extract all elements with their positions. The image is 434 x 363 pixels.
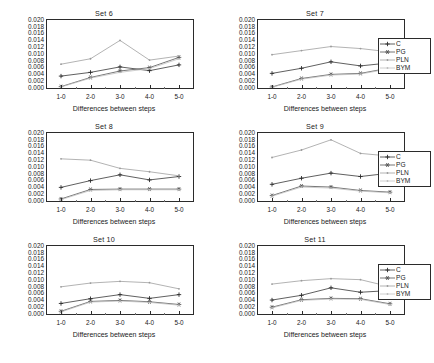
- chart-legend-row-1[interactable]: CPGPLNBYM: [378, 151, 431, 187]
- plot-area: [46, 132, 194, 202]
- legend-item-bym[interactable]: BYM: [379, 290, 430, 298]
- x-tick-label: 5-0: [385, 319, 394, 326]
- x-tick-minor-mark: [164, 200, 165, 202]
- y-tick-label: 0.006: [239, 64, 255, 70]
- legend-item-c[interactable]: C: [379, 266, 430, 274]
- x-tick-minor-mark: [375, 313, 376, 315]
- legend-item-pg[interactable]: PG: [379, 161, 430, 169]
- x-tick-label: 3-0: [326, 319, 335, 326]
- x-tick-minor-mark: [105, 87, 106, 89]
- y-tick-label: 0.012: [239, 157, 255, 163]
- legend-label: C: [396, 40, 401, 48]
- y-tick-label: 0.006: [239, 290, 255, 296]
- y-tick-label: 0.002: [28, 304, 44, 310]
- y-tick-label: 0.000: [239, 311, 255, 317]
- y-axis: 0.0000.0020.0040.0060.0080.0100.0120.014…: [4, 132, 44, 202]
- x-tick-label: 4-0: [145, 93, 154, 100]
- y-axis: 0.0000.0020.0040.0060.0080.0100.0120.014…: [4, 245, 44, 315]
- legend-swatch-icon: [379, 56, 396, 64]
- legend-swatch-icon: [379, 177, 396, 185]
- x-tick-mark: [61, 85, 62, 88]
- chart-legend-row-2[interactable]: CPGPLNBYM: [378, 264, 431, 300]
- y-tick-label: 0.002: [239, 78, 255, 84]
- legend-swatch-icon: [379, 274, 396, 282]
- legend-swatch-icon: [379, 169, 396, 177]
- legend-item-bym[interactable]: BYM: [379, 177, 430, 185]
- x-tick-minor-mark: [375, 200, 376, 202]
- chart-legend-row-0[interactable]: CPGPLNBYM: [378, 38, 431, 74]
- x-tick-minor-mark: [164, 87, 165, 89]
- x-tick-minor-mark: [135, 313, 136, 315]
- x-tick-mark: [120, 198, 121, 201]
- y-tick-label: 0.018: [28, 250, 44, 256]
- x-axis: 1-02-03-04-05-0: [46, 202, 194, 218]
- y-tick-label: 0.008: [28, 284, 44, 290]
- legend-label: PLN: [396, 282, 409, 290]
- y-tick-label: 0.012: [28, 44, 44, 50]
- x-tick-label: 2-0: [297, 93, 306, 100]
- x-tick-mark: [91, 85, 92, 88]
- x-tick-mark: [150, 311, 151, 314]
- y-tick-label: 0.000: [28, 85, 44, 91]
- y-tick-label: 0.000: [239, 85, 255, 91]
- legend-label: C: [396, 153, 401, 161]
- y-tick-label: 0.014: [239, 37, 255, 43]
- legend-item-pln[interactable]: PLN: [379, 282, 430, 290]
- x-tick-mark: [361, 311, 362, 314]
- legend-item-pln[interactable]: PLN: [379, 169, 430, 177]
- y-tick-label: 0.020: [239, 17, 255, 23]
- y-tick-label: 0.000: [239, 198, 255, 204]
- x-tick-mark: [302, 311, 303, 314]
- y-tick-label: 0.020: [28, 243, 44, 249]
- y-tick-label: 0.020: [239, 130, 255, 136]
- x-tick-label: 5-0: [385, 206, 394, 213]
- legend-label: BYM: [396, 177, 410, 185]
- x-tick-label: 3-0: [115, 93, 124, 100]
- y-tick-label: 0.008: [239, 171, 255, 177]
- y-tick-label: 0.018: [28, 24, 44, 30]
- y-axis: 0.0000.0020.0040.0060.0080.0100.0120.014…: [4, 19, 44, 89]
- legend-item-c[interactable]: C: [379, 153, 430, 161]
- x-tick-label: 2-0: [86, 206, 95, 213]
- figure-canvas: Set 60.0000.0020.0040.0060.0080.0100.012…: [0, 0, 434, 363]
- legend-label: BYM: [396, 64, 410, 72]
- x-tick-minor-mark: [76, 313, 77, 315]
- y-tick-label: 0.018: [239, 250, 255, 256]
- y-tick-label: 0.004: [28, 184, 44, 190]
- x-tick-minor-mark: [164, 313, 165, 315]
- x-tick-mark: [390, 198, 391, 201]
- y-tick-label: 0.004: [239, 297, 255, 303]
- y-tick-label: 0.006: [28, 290, 44, 296]
- x-tick-minor-mark: [346, 313, 347, 315]
- legend-label: PLN: [396, 169, 409, 177]
- x-tick-label: 2-0: [86, 319, 95, 326]
- y-tick-label: 0.014: [28, 150, 44, 156]
- x-tick-mark: [302, 198, 303, 201]
- x-tick-minor-mark: [105, 200, 106, 202]
- y-tick-label: 0.002: [239, 191, 255, 197]
- y-tick-label: 0.002: [28, 78, 44, 84]
- legend-item-pg[interactable]: PG: [379, 48, 430, 56]
- x-tick-mark: [361, 198, 362, 201]
- y-tick-label: 0.018: [239, 24, 255, 30]
- legend-item-bym[interactable]: BYM: [379, 64, 430, 72]
- x-tick-label: 2-0: [297, 206, 306, 213]
- y-tick-label: 0.004: [28, 71, 44, 77]
- x-tick-mark: [179, 311, 180, 314]
- x-tick-label: 4-0: [145, 206, 154, 213]
- legend-item-pln[interactable]: PLN: [379, 56, 430, 64]
- legend-swatch-icon: [379, 266, 396, 274]
- x-tick-label: 3-0: [326, 206, 335, 213]
- y-tick-label: 0.008: [28, 58, 44, 64]
- x-tick-label: 2-0: [86, 93, 95, 100]
- chart-panel-0: Set 60.0000.0020.0040.0060.0080.0100.012…: [4, 6, 204, 127]
- legend-item-c[interactable]: C: [379, 40, 430, 48]
- legend-item-pg[interactable]: PG: [379, 274, 430, 282]
- x-tick-minor-mark: [105, 313, 106, 315]
- legend-swatch-icon: [379, 290, 396, 298]
- x-tick-label: 1-0: [56, 319, 65, 326]
- panel-row-2: Set 100.0000.0020.0040.0060.0080.0100.01…: [0, 232, 434, 353]
- panel-row-0: Set 60.0000.0020.0040.0060.0080.0100.012…: [0, 6, 434, 127]
- y-tick-label: 0.004: [239, 71, 255, 77]
- y-tick-label: 0.004: [239, 184, 255, 190]
